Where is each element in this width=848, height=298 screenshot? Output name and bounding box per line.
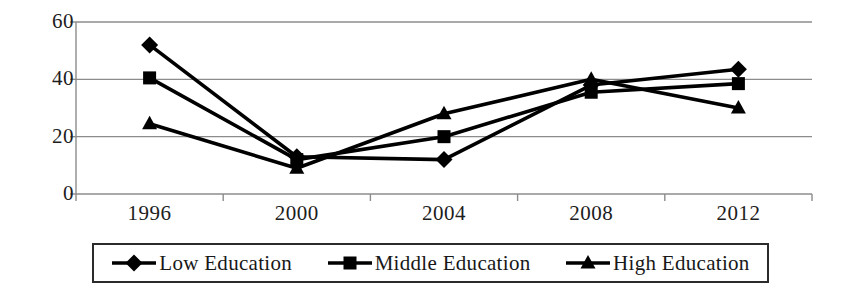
diamond-marker-icon xyxy=(111,253,157,273)
legend-item-low-education: Low Education xyxy=(111,253,292,274)
triangle-marker-icon xyxy=(565,253,611,273)
x-tick-label-1996: 1996 xyxy=(95,198,205,228)
legend-item-high-education: High Education xyxy=(565,253,750,274)
square-marker-icon xyxy=(143,71,156,84)
legend-label: Low Education xyxy=(159,253,292,274)
diamond-marker-icon xyxy=(436,151,453,168)
square-marker-icon xyxy=(343,257,356,270)
y-tick-label-20: 20 xyxy=(28,126,74,147)
line-chart: 6040200 19962000200420082012 Low Educati… xyxy=(0,0,848,298)
x-axis-tick-labels: 19962000200420082012 xyxy=(0,198,848,234)
legend-item-middle-education: Middle Education xyxy=(327,253,531,274)
y-tick-label-40: 40 xyxy=(28,68,74,89)
square-marker-icon xyxy=(732,77,745,90)
triangle-marker-icon xyxy=(142,116,157,130)
x-tick-label-2004: 2004 xyxy=(389,198,499,228)
diamond-marker-icon xyxy=(126,255,143,272)
diamond-marker-icon xyxy=(730,61,747,78)
legend-label: High Education xyxy=(613,253,750,274)
x-tick-label-2000: 2000 xyxy=(242,198,352,228)
triangle-marker-icon xyxy=(584,71,599,85)
x-tick-label-2012: 2012 xyxy=(683,198,793,228)
chart-legend: Low EducationMiddle EducationHigh Educat… xyxy=(92,243,769,283)
legend-label: Middle Education xyxy=(375,253,531,274)
series-layer xyxy=(141,36,747,173)
y-tick-label-60: 60 xyxy=(28,11,74,32)
square-marker-icon xyxy=(438,130,451,143)
x-tick-label-2008: 2008 xyxy=(536,198,646,228)
square-marker-icon xyxy=(327,253,373,273)
square-marker-icon xyxy=(585,86,598,99)
